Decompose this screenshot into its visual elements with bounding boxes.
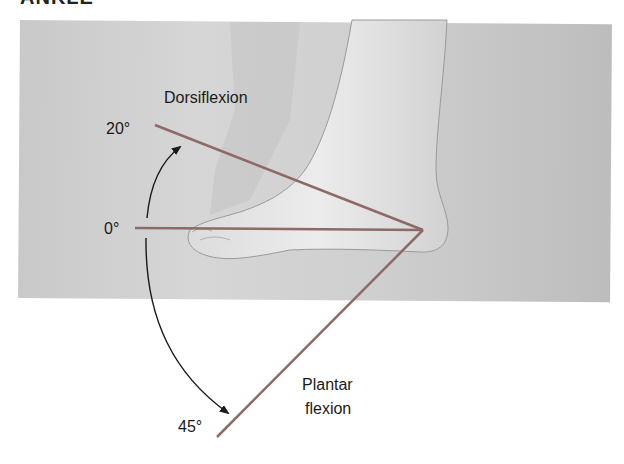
angle-0-label: 0° — [104, 219, 119, 238]
angle-20-label: 20° — [106, 119, 130, 138]
dorsiflexion-arrow — [147, 147, 180, 218]
plantar-flexion-label-line1: Plantar — [302, 375, 353, 394]
angle-45-label: 45° — [178, 417, 202, 436]
plantar-flexion-label-line2: flexion — [305, 399, 351, 418]
background-leg-shadow — [210, 22, 300, 215]
dorsiflexion-label: Dorsiflexion — [164, 88, 248, 107]
plantarflexion-arrow — [146, 238, 228, 413]
diagram-overlay — [0, 0, 624, 464]
